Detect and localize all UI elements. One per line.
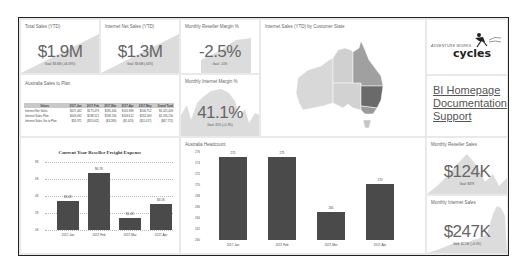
kpi-title: Monthly Reseller Margin %: [185, 24, 239, 29]
x-tick: 2017-Feb: [270, 243, 294, 247]
kpi-monthly-internet-sales[interactable]: Monthly Internet Sales $247K Goal: $233K…: [427, 196, 507, 253]
kpi-value: $1.9M: [21, 42, 99, 62]
bar-value: 275: [272, 151, 292, 155]
chart-title: Australia Headcount: [185, 142, 226, 147]
kpi-title: Internet Net Sales (YTD): [105, 24, 154, 29]
y-tick: 6K: [35, 177, 39, 181]
kpi-monthly-reseller-sales[interactable]: Monthly Reseller Sales $124K Goal: $37K: [427, 138, 507, 194]
x-tick: 2017-Jan: [56, 233, 80, 237]
bar-2017-jan[interactable]: [57, 201, 79, 230]
y-tick: 8K: [35, 160, 39, 164]
bar-value: 265: [321, 206, 341, 210]
kpi-goal: Goal: -10%: [181, 62, 259, 66]
gridline: [45, 162, 173, 163]
kpi-value: 41.1%: [181, 103, 259, 123]
y-tick: 266: [195, 205, 200, 209]
y-tick: 2K: [35, 211, 39, 215]
kpi-goal: Goal: $37K: [427, 182, 507, 186]
y-tick: 260: [195, 238, 200, 242]
x-tick: 2017-Apr: [149, 233, 173, 237]
bar-2017-feb[interactable]: [88, 173, 110, 230]
kpi-total-sales[interactable]: Total Sales (YTD) $1.9M Goal: $3.6M (-46…: [21, 20, 99, 73]
gridline: [45, 230, 173, 231]
bar-2017-apr[interactable]: [150, 204, 172, 230]
documentation-link[interactable]: Documentation: [433, 97, 507, 110]
kpi-reseller-margin[interactable]: Monthly Reseller Margin % -2.5% Goal: -1…: [181, 20, 259, 73]
bar-value: $3.1K: [151, 198, 171, 202]
y-tick: 262: [195, 227, 200, 231]
y-tick: 272: [195, 172, 200, 176]
bar-2017-apr[interactable]: [366, 184, 394, 240]
kpi-value: $124K: [427, 162, 507, 182]
y-tick: 268: [195, 194, 200, 198]
kpi-title: Monthly Internet Margin %: [185, 79, 238, 84]
support-link[interactable]: Support: [433, 110, 507, 123]
table-cell: ($1,623): [117, 119, 134, 124]
x-tick: 2017-Mar: [118, 233, 142, 237]
kpi-value: $1.3M: [101, 42, 179, 62]
x-tick: 2017-Jan: [221, 243, 245, 247]
map-title: Internet Sales (YTD) by Customer State: [265, 24, 345, 29]
plan-table: Values 2017-Jan 2017-Feb 2017-Mar 2017-A…: [24, 103, 174, 124]
cyclist-icon: [471, 32, 503, 50]
kpi-title: Monthly Reseller Sales: [431, 142, 477, 147]
chart-title: Current Year Reseller Freight Expense: [21, 150, 179, 155]
bar-value: 275: [223, 151, 243, 155]
y-tick: 0K: [35, 228, 39, 232]
y-tick: 264: [195, 216, 200, 220]
table-cell: $18,371: [65, 119, 82, 124]
bar-value: 270: [370, 178, 390, 182]
kpi-title: Monthly Internet Sales: [431, 200, 476, 205]
table-cell: ($3,269): [100, 119, 117, 124]
australia-map[interactable]: [293, 38, 403, 133]
bar-2017-feb[interactable]: [268, 157, 296, 240]
links-tile: BI Homepage Documentation Support: [427, 76, 507, 136]
table-row: Internet Sales Var to Plan $18,371 ($13,…: [24, 119, 174, 124]
kpi-goal: Goal: $233K (+6.0%): [427, 242, 507, 246]
kpi-goal: Goal: $3.6M (-64%): [101, 62, 179, 66]
x-tick: 2017-Feb: [87, 233, 111, 237]
table-title: Australia Sales to Plan: [25, 81, 70, 86]
kpi-value: $247K: [427, 222, 507, 242]
table-cell: Internet Sales Var to Plan: [24, 119, 65, 124]
bi-homepage-link[interactable]: BI Homepage: [433, 84, 507, 97]
y-tick: 274: [195, 161, 200, 165]
x-tick: 2017-Apr: [368, 243, 392, 247]
bar-value: $3.4K: [58, 195, 78, 199]
bar-value: $6.7K: [89, 167, 109, 171]
sales-to-plan-table[interactable]: Australia Sales to Plan Values 2017-Jan …: [21, 75, 179, 136]
y-tick: 270: [195, 183, 200, 187]
map-internet-sales-by-state[interactable]: Internet Sales (YTD) by Customer State: [261, 20, 425, 136]
kpi-goal: Goal: 41% (+0.3%): [181, 123, 259, 127]
y-tick: 276: [195, 150, 200, 154]
logo-tile: ADVENTURE WORKS cycles: [427, 20, 507, 74]
table-cell: ($15,317): [135, 119, 153, 124]
freight-expense-chart[interactable]: Current Year Reseller Freight Expense 8K…: [21, 138, 179, 253]
x-tick: 2017-Mar: [319, 243, 343, 247]
bar-value: $1.4K: [120, 212, 140, 216]
kpi-title: Total Sales (YTD): [25, 24, 60, 29]
kpi-internet-margin[interactable]: Monthly Internet Margin % 41.1% Goal: 41…: [181, 75, 259, 136]
kpi-value: -2.5%: [181, 42, 259, 62]
bar-2017-mar[interactable]: [317, 212, 345, 240]
headcount-chart[interactable]: Australia Headcount 276 274 272 270 268 …: [181, 138, 425, 253]
table-cell: ($13,042): [83, 119, 100, 124]
kpi-internet-net-sales[interactable]: Internet Net Sales (YTD) $1.3M Goal: $3.…: [101, 20, 179, 73]
bar-2017-mar[interactable]: [119, 218, 141, 230]
table-cell: ($47,721): [152, 119, 174, 124]
bar-2017-jan[interactable]: [219, 157, 247, 240]
kpi-goal: Goal: $3.6M (-46.59%): [21, 62, 99, 66]
y-tick: 4K: [35, 194, 39, 198]
dashboard: Total Sales (YTD) $1.9M Goal: $3.6M (-46…: [18, 17, 509, 256]
